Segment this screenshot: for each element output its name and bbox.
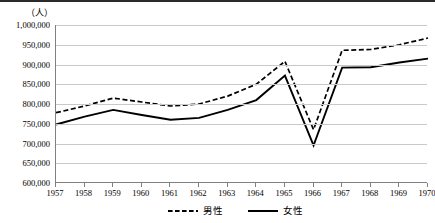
legend-item[interactable]: 男性 bbox=[168, 204, 223, 218]
x-axis-tick bbox=[313, 183, 314, 187]
y-axis-tick-label: 1,000,000 bbox=[16, 21, 50, 30]
x-axis-tick-label: 1969 bbox=[390, 188, 407, 199]
x-axis-tick bbox=[198, 183, 199, 187]
x-axis-tick-label: 1968 bbox=[361, 188, 378, 199]
x-axis-tick-label: 1962 bbox=[190, 188, 207, 199]
x-axis-tick bbox=[370, 183, 371, 187]
chart-legend: 男性女性 bbox=[0, 204, 435, 221]
x-axis-tick-label: 1958 bbox=[75, 188, 92, 199]
x-axis-tick bbox=[341, 183, 342, 187]
y-axis-tick-label: 750,000 bbox=[22, 119, 50, 128]
x-axis-tick bbox=[141, 183, 142, 187]
y-axis-tick-label: 600,000 bbox=[22, 179, 50, 188]
x-axis-tick-label: 1963 bbox=[218, 188, 235, 199]
x-axis-tick-label: 1965 bbox=[275, 188, 292, 199]
gridline bbox=[56, 84, 427, 85]
gridline bbox=[56, 45, 427, 46]
x-axis-tick-label: 1959 bbox=[104, 188, 121, 199]
x-axis-tick bbox=[169, 183, 170, 187]
legend-label: 男性 bbox=[203, 205, 223, 217]
x-axis-tick bbox=[284, 183, 285, 187]
gridline bbox=[56, 124, 427, 125]
legend-label: 女性 bbox=[283, 205, 303, 217]
x-axis-tick-label: 1964 bbox=[247, 188, 264, 199]
x-axis-tick bbox=[255, 183, 256, 187]
x-axis-tick bbox=[112, 183, 113, 187]
x-axis-tick-labels: 1957195819591960196119621963196419651966… bbox=[0, 188, 435, 204]
y-axis-tick-label: 800,000 bbox=[22, 100, 50, 109]
gridline bbox=[56, 104, 427, 105]
legend-swatch-male bbox=[168, 206, 198, 216]
page-top-rule bbox=[0, 0, 435, 2]
x-axis-tick-label: 1957 bbox=[47, 188, 64, 199]
x-axis-tick bbox=[55, 183, 56, 187]
y-axis-tick-label: 700,000 bbox=[22, 139, 50, 148]
y-axis-tick-label: 950,000 bbox=[22, 40, 50, 49]
x-axis-tick-label: 1966 bbox=[304, 188, 321, 199]
x-axis-tick-label: 1970 bbox=[419, 188, 435, 199]
y-axis-tick-label: 650,000 bbox=[22, 159, 50, 168]
legend-swatch-female bbox=[248, 206, 278, 216]
x-axis-tick bbox=[227, 183, 228, 187]
legend-item[interactable]: 女性 bbox=[248, 204, 303, 218]
x-axis-tick bbox=[398, 183, 399, 187]
gridline bbox=[56, 65, 427, 66]
gridline bbox=[56, 163, 427, 164]
gridline bbox=[56, 144, 427, 145]
y-axis-tick-label: 850,000 bbox=[22, 80, 50, 89]
series-line-female bbox=[56, 59, 428, 146]
x-axis-tick-label: 1967 bbox=[333, 188, 350, 199]
y-axis-tick-label: 900,000 bbox=[22, 60, 50, 69]
x-axis-tick bbox=[427, 183, 428, 187]
chart-figure: （人） 1,000,000950,000900,000850,000800,00… bbox=[0, 0, 435, 223]
plot-area bbox=[55, 25, 427, 183]
x-axis-tick bbox=[84, 183, 85, 187]
x-axis-tick-label: 1960 bbox=[132, 188, 149, 199]
gridline bbox=[56, 25, 427, 26]
x-axis-tick-label: 1961 bbox=[161, 188, 178, 199]
